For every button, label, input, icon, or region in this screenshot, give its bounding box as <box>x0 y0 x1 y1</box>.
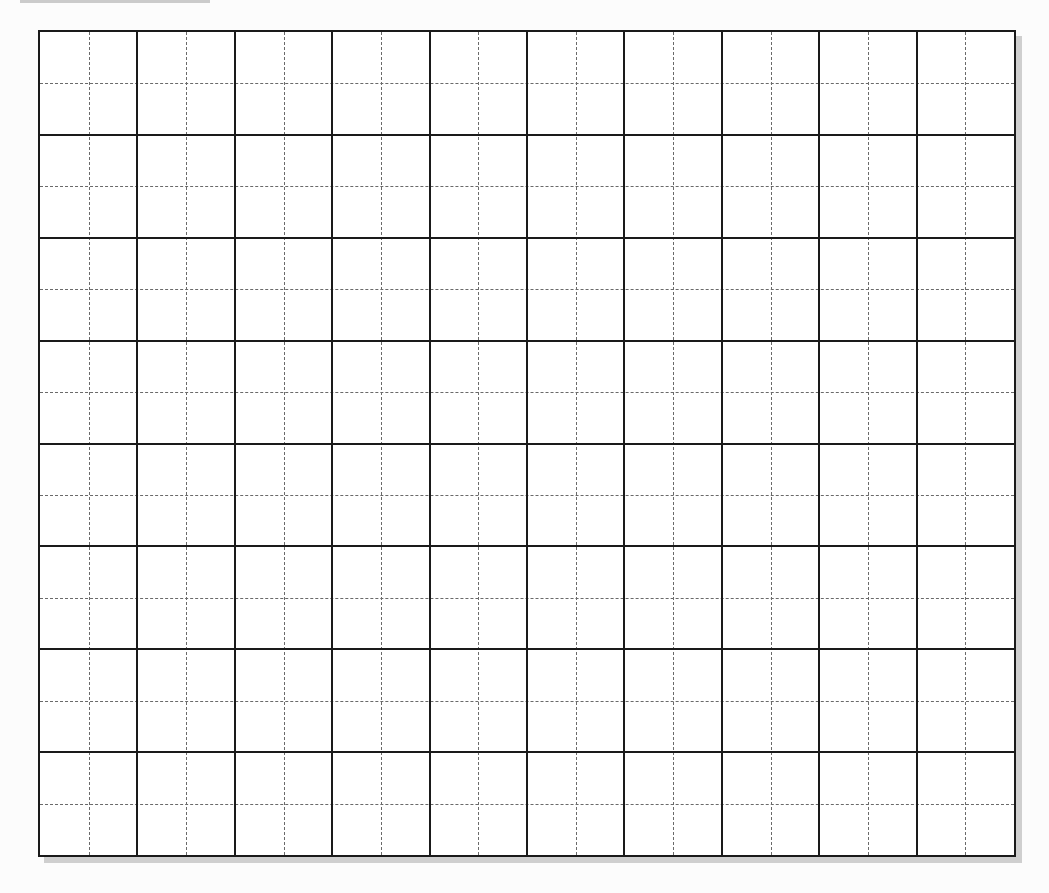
grid-major-line-horizontal <box>40 648 1014 650</box>
worksheet-page <box>0 0 1049 893</box>
grid-major-line-horizontal <box>40 134 1014 136</box>
grid-major-line-horizontal <box>40 751 1014 753</box>
answer-grid <box>38 30 1016 857</box>
grid-major-line-horizontal <box>40 340 1014 342</box>
grid-major-line-horizontal <box>40 443 1014 445</box>
grid-major-line-horizontal <box>40 237 1014 239</box>
grid-major-line-horizontal <box>40 545 1014 547</box>
scan-edge-artifact <box>20 0 210 3</box>
